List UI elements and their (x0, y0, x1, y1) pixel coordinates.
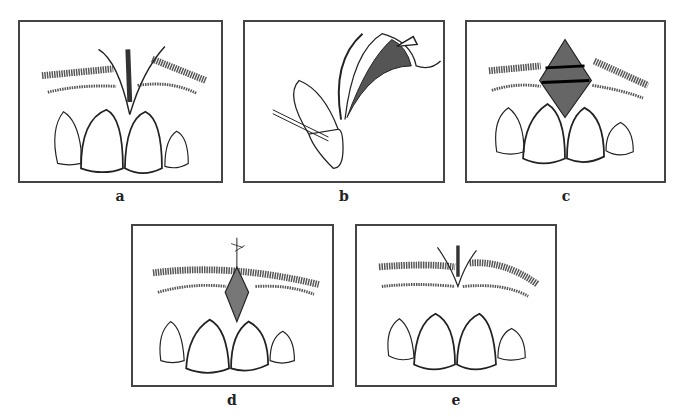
panel-c (465, 20, 666, 183)
panel-label-a: a (110, 188, 130, 204)
panel-label-e: e (446, 392, 466, 408)
frenum-incision-illustration (20, 22, 221, 181)
panel-a (18, 20, 223, 183)
panel-label-b: b (334, 188, 354, 204)
panel-d (131, 224, 334, 387)
cross-section-illustration (245, 22, 443, 181)
panel-label-d: d (222, 392, 242, 408)
diamond-graft-illustration (467, 22, 664, 181)
sutured-wound-illustration (133, 226, 332, 385)
panel-b (243, 20, 445, 183)
healed-result-illustration (357, 226, 555, 385)
panel-e (355, 224, 557, 387)
panel-label-c: c (556, 188, 576, 204)
